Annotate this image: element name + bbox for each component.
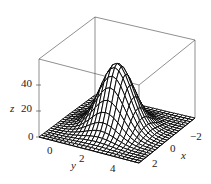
y-tick-2: 2 [79, 153, 85, 164]
y-axis-label: y [71, 160, 76, 171]
y-tick-4: 4 [110, 163, 116, 174]
z-tick-20: 20 [21, 103, 32, 114]
surface-plot [0, 0, 211, 184]
x-tick-2: 2 [152, 158, 158, 169]
z-tick-40: 40 [21, 78, 32, 89]
z-axis-label: z [10, 103, 14, 114]
x-tick-neg2: −2 [190, 131, 202, 142]
z-tick-0: 0 [28, 131, 34, 142]
x-tick-0: 0 [170, 143, 176, 154]
y-tick-0: 0 [47, 145, 53, 156]
x-axis-label: x [181, 150, 186, 161]
